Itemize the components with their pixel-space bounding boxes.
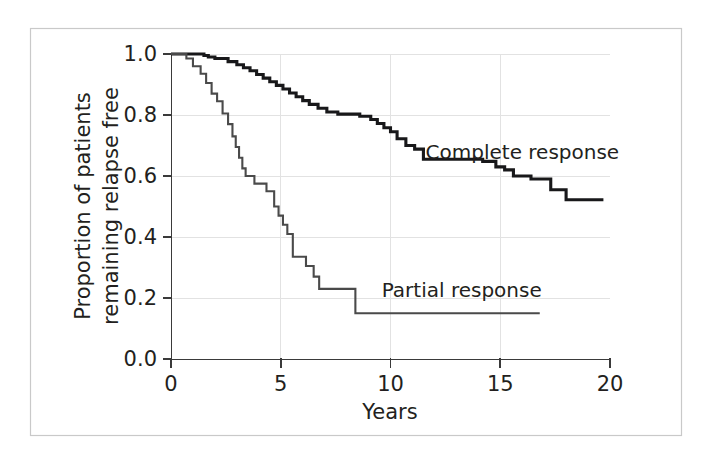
y-axis-title-line2: remaining relapse free bbox=[99, 87, 123, 325]
y-tick-label: 0.4 bbox=[124, 225, 157, 249]
x-axis-title: Years bbox=[361, 400, 417, 424]
y-tick-label: 0.2 bbox=[124, 286, 157, 310]
x-tick-label: 0 bbox=[164, 372, 177, 396]
x-tick-label: 5 bbox=[274, 372, 287, 396]
figure-container: 0.00.20.40.60.81.0 05101520 Proportion o… bbox=[0, 0, 702, 458]
y-axis-title-line1: Proportion of patients bbox=[71, 92, 95, 320]
y-tick-label: 1.0 bbox=[124, 42, 157, 66]
y-tick-label: 0.0 bbox=[124, 347, 157, 371]
kaplan-meier-chart: 0.00.20.40.60.81.0 05101520 Proportion o… bbox=[0, 0, 702, 458]
x-tick-label: 10 bbox=[377, 372, 404, 396]
series-label-partial-response: Partial response bbox=[382, 278, 542, 302]
series-label-complete-response: Complete response bbox=[426, 140, 620, 164]
y-tick-label: 0.8 bbox=[124, 103, 157, 127]
x-tick-label: 20 bbox=[597, 372, 624, 396]
y-tick-label: 0.6 bbox=[124, 164, 157, 188]
x-tick-label: 15 bbox=[487, 372, 514, 396]
